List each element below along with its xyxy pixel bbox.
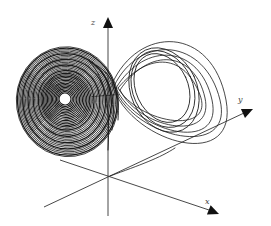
axis-x-line (60, 160, 209, 210)
axis-y-label: y (237, 95, 243, 104)
left-lobe-center-hole (60, 94, 70, 104)
axis-x-label: x (205, 197, 210, 206)
axis-z-label: z (90, 18, 96, 27)
axis-z-arrow-icon (103, 17, 113, 28)
right-lobe-orbit (118, 62, 202, 121)
lorenz-attractor-diagram: zyx (0, 0, 271, 226)
attractor-trajectory (9, 36, 227, 176)
